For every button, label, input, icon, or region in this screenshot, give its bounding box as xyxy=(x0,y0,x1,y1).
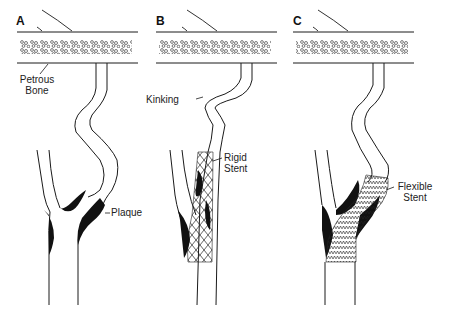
petrous-bone-b xyxy=(156,10,277,63)
plaque-label: Plaque xyxy=(111,207,142,218)
panel-c xyxy=(293,10,414,305)
rigid-stent-label-line1: Rigid xyxy=(224,152,247,163)
flexible-stent-label-line2: Stent xyxy=(393,192,437,203)
petrous-bone-label: Petrous Bone xyxy=(17,74,57,96)
panel-label-c: C xyxy=(293,14,302,28)
rigid-stent-label-line2: Stent xyxy=(224,163,247,174)
petrous-bone-c xyxy=(293,10,414,63)
flexible-stent-label: Flexible Stent xyxy=(393,181,437,203)
petrous-bone xyxy=(17,10,138,74)
plaque-a xyxy=(44,190,105,255)
panel-a xyxy=(17,10,138,305)
rigid-stent-label: Rigid Stent xyxy=(224,152,247,174)
rigid-stent xyxy=(188,152,214,262)
panel-label-b: B xyxy=(156,14,165,28)
petrous-bone-label-line2: Bone xyxy=(17,85,57,96)
artery-a xyxy=(37,63,118,305)
petrous-bone-label-line1: Petrous xyxy=(17,74,57,85)
kinking-leader-line xyxy=(196,97,203,99)
panel-label-a: A xyxy=(16,14,25,28)
flexible-stent-label-line1: Flexible xyxy=(393,181,437,192)
stent-leader-line-b xyxy=(213,158,222,161)
panel-b xyxy=(156,10,277,305)
bone-leader-line xyxy=(40,64,48,74)
kinking-label: Kinking xyxy=(146,94,179,105)
